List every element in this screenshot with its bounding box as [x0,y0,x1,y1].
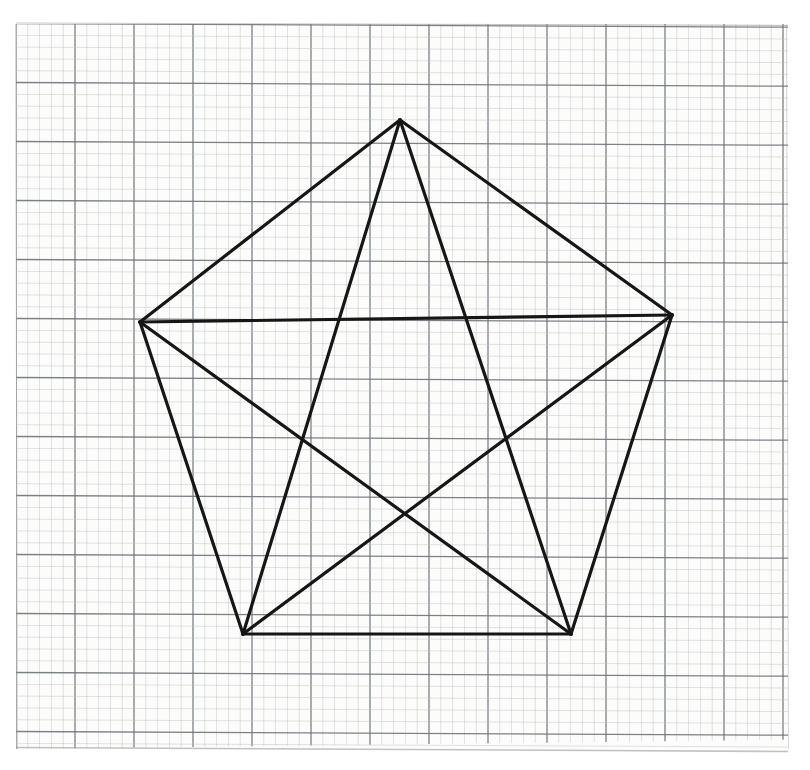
pentagon-vertex-top [398,118,402,122]
figure-canvas [0,0,810,770]
pentagon-diagram [0,0,810,770]
pentagon-vertex-bottom-right [569,632,573,636]
pentagon-vertex-left [138,320,142,324]
pentagon-vertex-bottom-left [241,632,245,636]
pentagon-vertex-right [670,313,674,317]
